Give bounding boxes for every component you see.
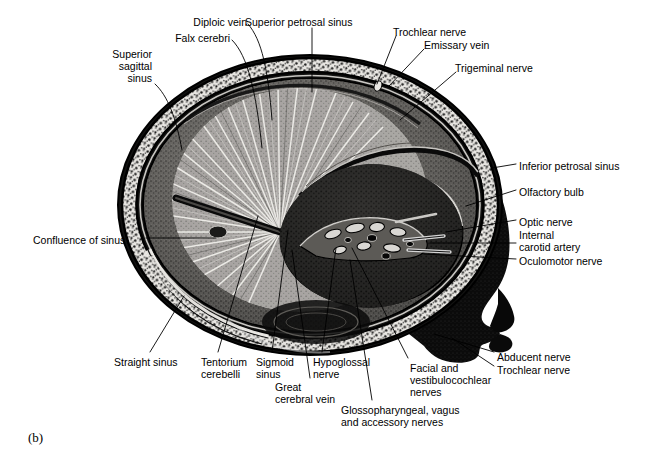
label-trochlear-nerve-top: Trochlear nerve [393,26,466,38]
label-abducent-nerve: Abducent nerve [497,351,571,363]
label-facial-vestibulo: Facial and vestibulocochlear nerves [410,362,491,399]
label-olfactory-bulb: Olfactory bulb [519,186,584,198]
label-glossopharyngeal: Glossopharyngeal, vagus and accessory ne… [341,404,460,428]
label-tentorium-cerebelli: Tentorium cerebelli [201,356,247,380]
label-trigeminal-nerve: Trigeminal nerve [455,62,533,74]
label-optic-nerve: Optic nerve [519,216,573,228]
label-hypoglossal-nerve: Hypoglossal nerve [313,356,370,380]
label-inferior-petrosal: Inferior petrosal sinus [519,160,619,172]
label-sigmoid-sinus: Sigmoid sinus [256,356,294,380]
label-emissary-vein: Emissary vein [424,39,489,51]
figure-caption: (b) [28,430,43,446]
label-internal-carotid: Internal carotid artery [519,229,580,253]
label-superior-sagittal: Superior sagittal sinus [112,48,152,85]
figure-panel: Diploic veinSuperior petrosal sinusFalx … [0,0,647,449]
label-great-cerebral-vein: Great cerebral vein [275,381,335,405]
label-superior-petrosal: Superior petrosal sinus [245,16,352,28]
label-confluence-of-sinus: Confluence of sinus [33,234,125,246]
label-diploic-vein: Diploic vein [193,16,247,28]
label-oculomotor-nerve: Oculomotor nerve [519,255,602,267]
label-falx-cerebri: Falx cerebri [175,32,230,44]
label-trochlear-nerve-bot: Trochlear nerve [497,364,570,376]
label-straight-sinus: Straight sinus [114,356,178,368]
